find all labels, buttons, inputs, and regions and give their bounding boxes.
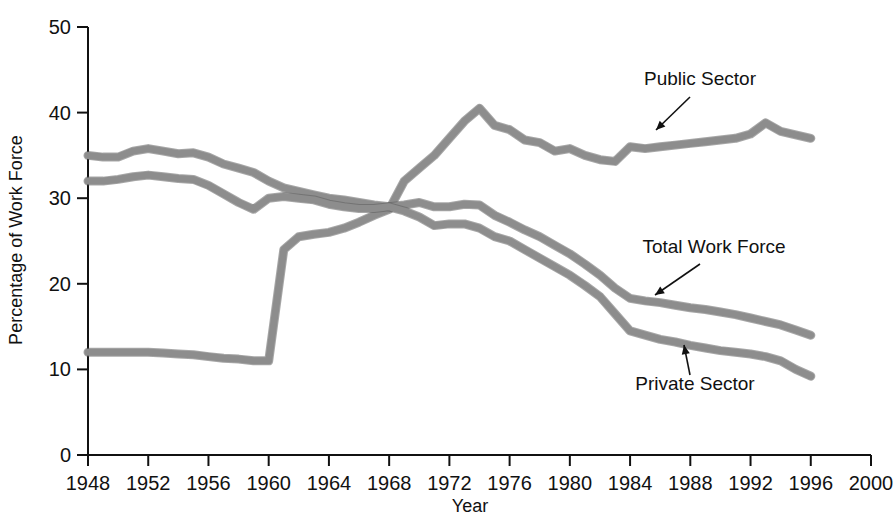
x-tick-label: 1960 — [246, 472, 291, 494]
x-tick-marks — [88, 455, 871, 466]
x-tick-label: 1992 — [728, 472, 773, 494]
x-tick-label: 1984 — [608, 472, 653, 494]
x-tick-label: 1980 — [548, 472, 593, 494]
x-tick-label: 1964 — [307, 472, 352, 494]
y-axis-title: Percentage of Work Force — [6, 135, 26, 345]
annotation-label: Public Sector — [644, 68, 757, 89]
annotation-label: Total Work Force — [642, 236, 785, 257]
annotation-total-work-force: Total Work Force — [642, 236, 785, 295]
y-tick-label: 20 — [49, 273, 71, 295]
line-chart: 01020304050 1948195219561960196419681972… — [0, 0, 896, 515]
y-tick-labels: 01020304050 — [49, 16, 71, 466]
y-tick-label: 0 — [60, 444, 71, 466]
x-tick-label: 1996 — [789, 472, 834, 494]
x-tick-label: 1948 — [66, 472, 111, 494]
x-tick-label: 1988 — [668, 472, 713, 494]
annotation-public-sector: Public Sector — [644, 68, 757, 130]
x-tick-labels: 1948195219561960196419681972197619801984… — [66, 472, 894, 494]
annotation-arrow-head — [655, 287, 665, 296]
y-tick-label: 40 — [49, 102, 71, 124]
chart-container: 01020304050 1948195219561960196419681972… — [0, 0, 896, 515]
annotation-label: Private Sector — [635, 373, 755, 394]
x-tick-label: 1968 — [367, 472, 412, 494]
y-tick-label: 30 — [49, 187, 71, 209]
x-axis-title: Year — [452, 496, 488, 515]
x-tick-label: 1952 — [126, 472, 171, 494]
y-tick-label: 10 — [49, 358, 71, 380]
y-tick-marks — [77, 27, 88, 455]
series-line-edge — [88, 108, 811, 360]
x-tick-label: 1976 — [487, 472, 532, 494]
x-tick-label: 1972 — [427, 472, 472, 494]
series-public-sector — [88, 108, 811, 360]
x-tick-label: 1956 — [186, 472, 231, 494]
y-tick-label: 50 — [49, 16, 71, 38]
x-tick-label: 2000 — [849, 472, 894, 494]
